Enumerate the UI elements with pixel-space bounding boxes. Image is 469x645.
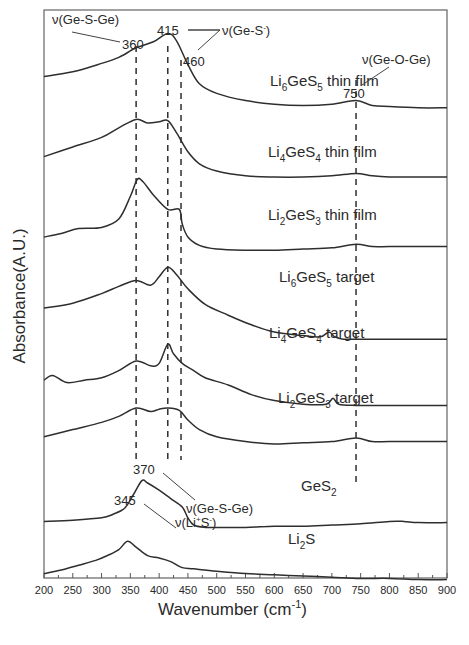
- annotation-345: 345: [114, 493, 136, 508]
- series-label: Li4GeS4 target: [269, 324, 365, 345]
- curve-li6ges5-thin-film: [44, 33, 447, 108]
- curve-li4ges4-target: [44, 344, 447, 405]
- annotation-415: 415: [157, 23, 179, 38]
- x-tick-label: 350: [121, 584, 139, 596]
- x-tick-label: 700: [323, 584, 341, 596]
- annotation-370: 370: [133, 462, 155, 477]
- series-labels: Li6GeS5 thin filmLi4GeS4 thin filmLi2GeS…: [268, 72, 379, 551]
- x-tick-label: 250: [64, 584, 82, 596]
- x-tick-label: 450: [179, 584, 197, 596]
- x-tick-label: 500: [208, 584, 226, 596]
- series-label: Li4GeS4 thin film: [268, 143, 377, 164]
- annotation-gesge-top: ν(Ge-S-Ge): [52, 12, 119, 27]
- x-tick-label: 600: [265, 584, 283, 596]
- annotation-ges-minus: ν(Ge-S-): [222, 23, 270, 38]
- x-tick-label: 650: [294, 584, 312, 596]
- annotation-460: 460: [183, 54, 205, 69]
- vertical-marker-lines: [136, 46, 356, 485]
- plot-frame: [44, 10, 447, 578]
- x-tick-label: 400: [150, 584, 168, 596]
- x-tick-label: 850: [409, 584, 427, 596]
- absorbance-chart: 2002503003504004505005506006507007508008…: [0, 0, 469, 645]
- annotation-gesoge: ν(Ge-O-Ge): [362, 52, 431, 67]
- x-axis-tick-labels: 2002503003504004505005506006507007508008…: [35, 584, 456, 596]
- x-tick-label: 900: [438, 584, 456, 596]
- curve-li2ges3-target: [44, 408, 447, 444]
- series-label: Li2S: [288, 530, 315, 551]
- curve-li6ges5-target: [44, 267, 447, 339]
- y-axis-title: Absorbance(A.U.): [10, 228, 29, 363]
- series-label: Li2GeS3 thin film: [268, 206, 377, 227]
- curve-li2s: [44, 541, 447, 580]
- x-tick-label: 750: [351, 584, 369, 596]
- x-tick-label: 800: [380, 584, 398, 596]
- series-label: Li6GeS5 target: [279, 268, 375, 289]
- curve-li2ges3-thin-film: [44, 178, 447, 250]
- annotation-360: 360: [122, 37, 144, 52]
- x-tick-label: 300: [92, 584, 110, 596]
- series-label: Li2GeS3 target: [278, 389, 374, 410]
- x-tick-label: 550: [236, 584, 254, 596]
- x-axis-title: Wavenumber (cm-1): [158, 598, 307, 619]
- x-tick-label: 200: [35, 584, 53, 596]
- curve-li4ges4-thin-film: [44, 119, 447, 177]
- spectra-curves: [44, 33, 447, 579]
- series-label: GeS2​: [301, 477, 337, 498]
- annotation-750: 750: [343, 86, 365, 101]
- annotation-gesge-bottom: ν(Ge-S-Ge): [186, 501, 253, 516]
